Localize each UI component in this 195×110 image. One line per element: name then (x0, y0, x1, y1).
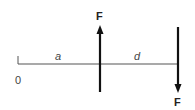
force-arrow-up-icon (97, 25, 104, 92)
segment-label-a: a (55, 50, 61, 62)
force-arrow-down-icon (175, 27, 182, 93)
force-label-up: F (96, 10, 103, 22)
force-diagram: 0 a d F F (0, 0, 195, 110)
force-label-down: F (174, 96, 181, 108)
segment-label-d: d (134, 50, 141, 62)
origin-label: 0 (15, 74, 21, 86)
